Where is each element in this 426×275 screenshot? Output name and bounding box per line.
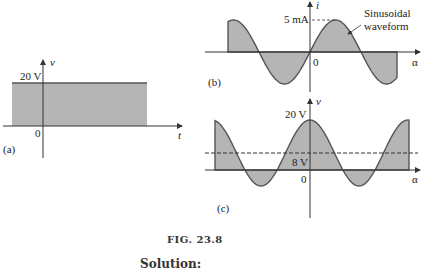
panel-b: 5 mA i 0 α (b) Sinusoidal waveform [205, 0, 420, 92]
panel-label: (a) [3, 143, 16, 156]
panel-c: 20 V v 8 V 0 α (c) [205, 95, 420, 218]
panel-label: (c) [217, 202, 230, 215]
y-axis-label: v [50, 56, 55, 68]
y-axis-label: i [316, 0, 319, 11]
origin-label: 0 [301, 173, 307, 185]
panel-label: (b) [208, 76, 221, 89]
x-axis-label: t [178, 129, 182, 141]
peak-label: 20 V [285, 108, 307, 120]
x-axis-label: α [412, 173, 418, 185]
dc-label: 8 V [292, 156, 308, 168]
y-axis-label: v [316, 95, 321, 107]
figure-caption: FIG. 23.8 [167, 234, 223, 245]
origin-label: 0 [313, 56, 319, 68]
dc-area [12, 83, 147, 126]
origin-label: 0 [35, 127, 41, 139]
annotation-line1: Sinusoidal [364, 7, 410, 19]
peak-label: 5 mA [284, 13, 309, 25]
annotation-line2: waveform [364, 20, 409, 32]
panel-a: 20 V v 0 t (a) [3, 56, 182, 158]
solution-heading: Solution: [140, 257, 201, 271]
level-label: 20 V [20, 70, 42, 82]
x-axis-label: α [412, 56, 418, 68]
